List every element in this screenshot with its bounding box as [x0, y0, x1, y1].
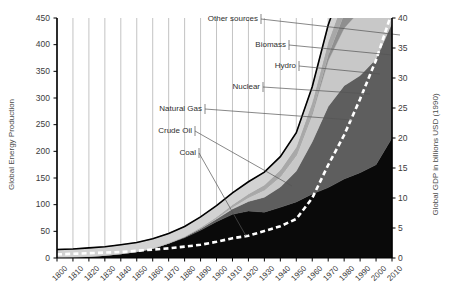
label-other-sources: Other sources — [188, 14, 258, 23]
label-biomass: Biomass — [216, 40, 286, 49]
y-right-tick-40: 40 — [398, 13, 424, 23]
label-hydro: Hydro — [226, 61, 296, 70]
y-left-tick-0: 0 — [24, 253, 50, 263]
label-nuclear: Nuclear — [190, 82, 260, 91]
y-left-tick-150: 150 — [24, 173, 50, 183]
y-right-tick-10: 10 — [398, 193, 424, 203]
y-right-tick-20: 20 — [398, 133, 424, 143]
y-right-tick-30: 30 — [398, 73, 424, 83]
y-right-tick-5: 5 — [398, 223, 424, 233]
y-right-tick-0: 0 — [398, 253, 424, 263]
stacked-areas — [57, 0, 392, 258]
y-right-tick-25: 25 — [398, 103, 424, 113]
y-left-tick-450: 450 — [24, 13, 50, 23]
y-right-tick-15: 15 — [398, 163, 424, 173]
label-crude-oil: Crude Oil — [122, 126, 192, 135]
y-left-tick-50: 50 — [24, 226, 50, 236]
y-left-tick-400: 400 — [24, 39, 50, 49]
y-right-tick-35: 35 — [398, 43, 424, 53]
energy-gdp-chart: Global Energy Production Global GDP in b… — [0, 0, 449, 302]
label-coal: Coal — [126, 148, 196, 157]
y-left-tick-200: 200 — [24, 146, 50, 156]
y-left-tick-350: 350 — [24, 66, 50, 76]
y-left-tick-100: 100 — [24, 199, 50, 209]
y-left-tick-300: 300 — [24, 93, 50, 103]
y-left-tick-250: 250 — [24, 119, 50, 129]
label-natural-gas: Natural Gas — [132, 104, 202, 113]
